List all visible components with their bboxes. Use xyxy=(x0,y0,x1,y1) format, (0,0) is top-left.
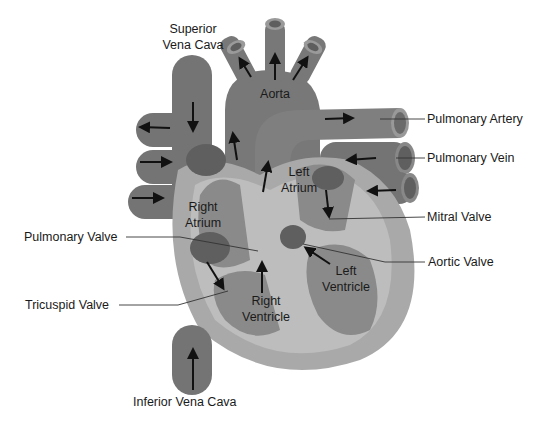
label-pulmonary-valve: Pulmonary Valve xyxy=(24,230,118,244)
label-pulmonary-vein: Pulmonary Vein xyxy=(427,151,515,165)
label-left-atrium-2: Atrium xyxy=(281,181,317,195)
arrow-left-pv-icon xyxy=(369,190,396,191)
arrow-left-icon xyxy=(141,127,170,128)
label-left-ventricle-1: Left xyxy=(336,264,357,278)
arrow-right-pa-icon xyxy=(325,118,352,119)
label-inferior-vena-cava: Inferior Vena Cava xyxy=(133,395,237,409)
label-left-ventricle-2: Ventricle xyxy=(322,280,370,294)
label-pulmonary-artery: Pulmonary Artery xyxy=(427,112,524,126)
label-right-ventricle-1: Right xyxy=(251,294,281,308)
label-superior-vena-cava-2: Vena Cava xyxy=(162,38,223,52)
label-right-ventricle-2: Ventricle xyxy=(242,310,290,324)
label-tricuspid-valve: Tricuspid Valve xyxy=(25,298,109,312)
label-aorta: Aorta xyxy=(260,87,290,101)
heart-diagram: Superior Vena Cava Aorta Pulmonary Arter… xyxy=(0,0,553,429)
label-aortic-valve: Aortic Valve xyxy=(428,255,494,269)
label-right-atrium-1: Right xyxy=(188,200,218,214)
label-left-atrium-1: Left xyxy=(289,165,310,179)
label-right-atrium-2: Atrium xyxy=(185,216,221,230)
label-mitral-valve: Mitral Valve xyxy=(427,210,491,224)
label-superior-vena-cava-1: Superior xyxy=(169,22,216,36)
